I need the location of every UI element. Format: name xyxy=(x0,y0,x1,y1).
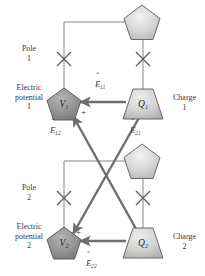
label-electric-potential-1: Electric potential 1 xyxy=(0,83,58,112)
e12-subscript: 12 xyxy=(55,130,61,136)
diagram-canvas: V1 V2 Q1 Q2 Pole 1 Electric potential 1 … xyxy=(0,0,205,276)
label-charge-2: Charge 2 xyxy=(164,232,205,251)
e22-subscript: 22 xyxy=(91,263,97,269)
vector-label-e21: E21 xyxy=(130,125,142,135)
label-electric-potential-2: Electric potential 2 xyxy=(0,222,58,251)
vector-label-e11: E11 xyxy=(95,79,106,89)
charge-1-node[interactable]: Q1 xyxy=(123,89,163,119)
vector-label-e22: E22 xyxy=(86,258,98,268)
plus-sign-potential-1: + xyxy=(81,108,86,117)
junction-middle-node[interactable] xyxy=(124,144,160,179)
e21-subscript: 21 xyxy=(135,130,141,136)
junction-top-node[interactable] xyxy=(124,5,160,40)
label-pole-2: Pole 2 xyxy=(3,183,55,202)
charge-2-node[interactable]: Q2 xyxy=(123,228,163,258)
plus-sign-potential-2: + xyxy=(76,228,81,237)
label-charge-1: Charge 1 xyxy=(164,93,205,112)
vector-label-e12: E12 xyxy=(50,125,62,135)
label-pole-1: Pole 1 xyxy=(3,44,55,63)
e11-subscript: 11 xyxy=(100,84,106,90)
